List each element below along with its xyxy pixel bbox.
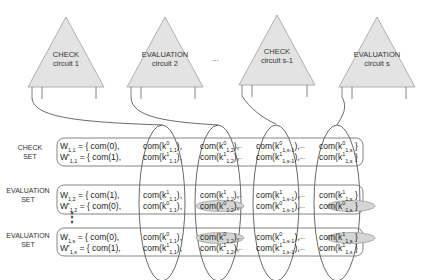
circuit-type: CHECK	[247, 47, 307, 56]
commitment-cell: com(k01,s-1),	[256, 232, 300, 242]
commitment-cell: com(k11,s-1),	[256, 190, 300, 200]
circuit-gap-ellipsis: ...	[212, 54, 219, 63]
commitment-cell: com(k11,2),	[200, 152, 239, 162]
circuit-s-label: EVALUATION circuit s	[347, 50, 407, 68]
evaluation-set-s-row-1: W1,s = { com(0),	[60, 232, 119, 242]
commitment-cell: com(k01,s }	[319, 201, 358, 211]
evaluation-set-2-row-2: W'1,2 = { com(0),	[60, 201, 121, 211]
row-ellipsis: ...	[236, 201, 242, 211]
check-set-label: CHECK SET	[2, 143, 58, 161]
commitment-cell: com(k01,s-1),	[256, 141, 300, 151]
set-word: SET	[2, 152, 58, 161]
commitment-cell: com(k11,s-1),	[256, 152, 300, 162]
row-ellipsis: ...	[299, 201, 305, 211]
commitment-cell: com(k01,1),	[143, 232, 182, 242]
vertical-ellipsis: ⋮	[66, 213, 78, 222]
commitment-cell: com(k11,1),	[143, 243, 182, 253]
row-ellipsis: ...	[236, 243, 242, 253]
commitment-cell: com(k01,2),	[200, 141, 239, 151]
circuit-name: circuit 1	[36, 59, 96, 68]
circuit-type: EVALUATION	[135, 50, 195, 59]
circuit-2-label: EVALUATION circuit 2	[135, 50, 195, 68]
commitment-cell: com(k11,s }	[319, 232, 358, 242]
row-ellipsis: ...	[299, 243, 305, 253]
commitment-cell: com(k01,1),	[143, 201, 182, 211]
commitment-cell: com(k01,1),	[143, 141, 182, 151]
circuit-s-1-label: CHECK circuit s-1	[247, 47, 307, 65]
set-type: EVALUATION	[0, 231, 56, 240]
evaluation-set-s-label: EVALUATION SET	[0, 231, 56, 249]
evaluation-set-2-label: EVALUATION SET	[0, 186, 56, 204]
commitment-cell: com(k11,1),	[143, 152, 182, 162]
commitment-cell: com(k11,2),	[200, 190, 239, 200]
commitment-cell: com(k11,s }	[319, 190, 358, 200]
check-set-row-1: W1,1 = { com(0),	[60, 141, 119, 151]
commitment-cell: com(k01,s-1),	[256, 201, 300, 211]
set-type: EVALUATION	[0, 186, 56, 195]
evaluation-set-2-row-1: W1,2 = { com(1),	[60, 190, 119, 200]
circuit-name: circuit s-1	[247, 56, 307, 65]
commitment-cell: com(k01,2),	[200, 201, 239, 211]
commitment-cell: com(k01,2),	[200, 232, 239, 242]
connector-curves	[32, 96, 345, 125]
commitment-cell: com(k11,s }	[319, 152, 358, 162]
circuit-type: CHECK	[36, 50, 96, 59]
circuit-1-label: CHECK circuit 1	[36, 50, 96, 68]
evaluation-set-s-row-2: W'1,s = { com(1),	[60, 243, 121, 253]
row-ellipsis: ...	[236, 190, 242, 200]
commitment-cell: com(k11,s-1),	[256, 243, 300, 253]
set-type: CHECK	[2, 143, 58, 152]
row-ellipsis: ...	[236, 152, 242, 162]
set-word: SET	[0, 195, 56, 204]
row-ellipsis: ...	[236, 232, 242, 242]
commitment-cell: com(k11,s }	[319, 243, 358, 253]
circuit-name: circuit 2	[135, 59, 195, 68]
commitment-cell: com(k11,1),	[143, 190, 182, 200]
row-ellipsis: ...	[299, 190, 305, 200]
commitment-cell: com(k11,2),	[200, 243, 239, 253]
row-ellipsis: ...	[299, 152, 305, 162]
set-word: SET	[0, 240, 56, 249]
check-set-row-2: W'1,1 = { com(1),	[60, 152, 121, 162]
commitment-cell: com(k01,s }	[319, 141, 358, 151]
row-ellipsis: ...	[299, 232, 305, 242]
circuit-name: circuit s	[347, 59, 407, 68]
row-ellipsis: ...	[299, 141, 305, 151]
row-ellipsis: ...	[236, 141, 242, 151]
circuit-type: EVALUATION	[347, 50, 407, 59]
